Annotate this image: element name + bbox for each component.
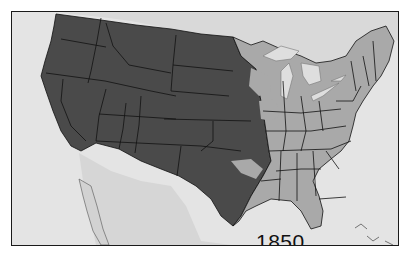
us-map-1850 bbox=[12, 12, 398, 245]
map-frame: 1850 bbox=[11, 11, 399, 246]
kansas-area bbox=[259, 99, 279, 121]
map-year-label: 1850 bbox=[256, 230, 305, 246]
